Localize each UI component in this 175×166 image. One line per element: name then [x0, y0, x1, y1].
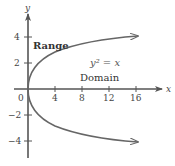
equation-label: y² = x	[89, 57, 120, 68]
graph: x y 0 4 8 12 16 4 2 −2 −4 Range y² = x D…	[0, 0, 175, 166]
domain-label: Domain	[80, 72, 120, 83]
y-axis-label: y	[24, 3, 31, 13]
y-tick-4: 4	[14, 32, 20, 42]
x-tick-12: 12	[103, 93, 114, 103]
x-tick-16: 16	[130, 93, 142, 103]
y-tick-neg4: −4	[8, 136, 22, 146]
range-label: Range	[33, 40, 69, 51]
x-axis-label: x	[166, 84, 171, 94]
y-tick-2: 2	[14, 58, 20, 68]
x-tick-4: 4	[52, 93, 58, 103]
y-tick-neg2: −2	[8, 110, 21, 120]
x-tick-0: 0	[18, 93, 24, 103]
x-tick-8: 8	[79, 93, 85, 103]
